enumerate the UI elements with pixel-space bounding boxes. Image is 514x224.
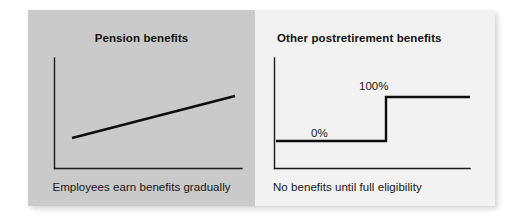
- panel-other-postretirement-benefits: Other postretirement benefits 0% 100% No…: [255, 10, 495, 206]
- figure-container: Pension benefits Employees earn benefits…: [28, 10, 495, 206]
- pension-accrual-line: [72, 96, 235, 138]
- panel-pension-benefits: Pension benefits Employees earn benefits…: [28, 10, 255, 206]
- pension-benefits-plot: [28, 10, 255, 206]
- panel-pension-caption: Employees earn benefits gradually: [28, 181, 255, 193]
- other-postretirement-benefits-plot: [255, 10, 495, 206]
- opeb-hundred-percent-label: 100%: [359, 80, 388, 92]
- panel-opeb-caption: No benefits until full eligibility: [273, 181, 422, 193]
- opeb-step-line: [276, 97, 470, 141]
- opeb-zero-percent-label: 0%: [311, 127, 328, 139]
